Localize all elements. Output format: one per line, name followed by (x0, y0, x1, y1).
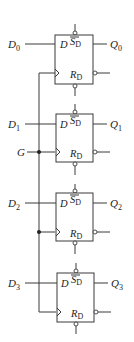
flipflop-2: D2 Q2 D SD RD (7, 184, 122, 254)
clock-bus (27, 73, 56, 312)
input-label: D0 (7, 38, 20, 53)
input-label: D1 (7, 118, 20, 133)
pin-d-label: D (59, 39, 68, 50)
output-label: Q0 (110, 38, 122, 53)
input-label: D3 (7, 277, 20, 292)
output-label: Q3 (111, 277, 123, 292)
clock-label: G (17, 146, 25, 158)
output-label: Q1 (110, 118, 122, 133)
output-label: Q2 (110, 197, 122, 212)
pin-d-label: D (59, 119, 68, 130)
flipflop-1: D1 Q1 D SD RD (7, 104, 122, 175)
register-schematic: G D0 Q0 D SD RD D1 Q1 D SD RD (0, 0, 134, 342)
flipflop-3: D3 Q3 D SD RD (7, 263, 123, 334)
junction-dot (37, 230, 41, 234)
junction-dot (37, 150, 41, 154)
pin-d-label: D (59, 198, 68, 209)
flipflop-0: D0 Q0 D SD RD (7, 24, 122, 96)
pin-d-label: D (60, 278, 69, 289)
input-label: D2 (7, 197, 20, 212)
